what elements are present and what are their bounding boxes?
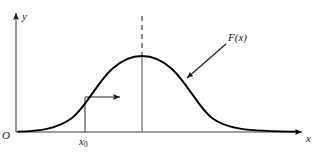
origin-label: O	[2, 130, 10, 141]
bell-curve-figure: y x O x0 F(x)	[0, 0, 317, 156]
fx-leader-arrow	[187, 44, 226, 78]
y-axis-label: y	[22, 11, 27, 22]
x0-label-subscript: 0	[84, 140, 88, 149]
x0-label: x0	[79, 136, 88, 147]
curve-label: F(x)	[228, 32, 247, 43]
density-curve	[18, 56, 298, 132]
x-axis-label: x	[306, 133, 311, 144]
diagram-canvas	[0, 0, 317, 156]
